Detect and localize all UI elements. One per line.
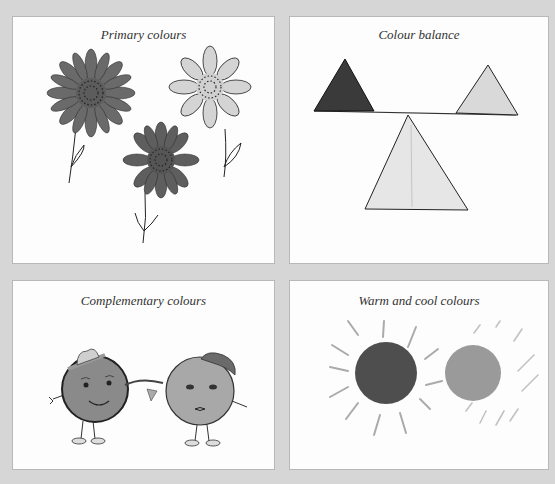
panel-complementary-colours: Complementary colours xyxy=(12,280,275,470)
triangles-illustration xyxy=(290,17,550,265)
warm-sun xyxy=(355,342,417,404)
light-triangle xyxy=(456,65,518,115)
dark-flower xyxy=(47,49,135,137)
flowers-illustration xyxy=(13,17,276,265)
panel-colour-balance: Colour balance xyxy=(289,16,549,264)
cool-sun xyxy=(445,345,501,401)
characters-illustration xyxy=(13,281,276,471)
boy-character xyxy=(49,349,128,444)
mid-flower xyxy=(123,122,199,198)
dark-triangle xyxy=(314,59,374,111)
panel-primary-colours: Primary colours xyxy=(12,16,275,264)
girl-character xyxy=(166,353,247,446)
suns-illustration xyxy=(290,281,550,471)
panel-warm-cool-colours: Warm and cool colours xyxy=(289,280,549,470)
fulcrum-triangle xyxy=(365,115,468,210)
light-flower xyxy=(169,46,251,128)
